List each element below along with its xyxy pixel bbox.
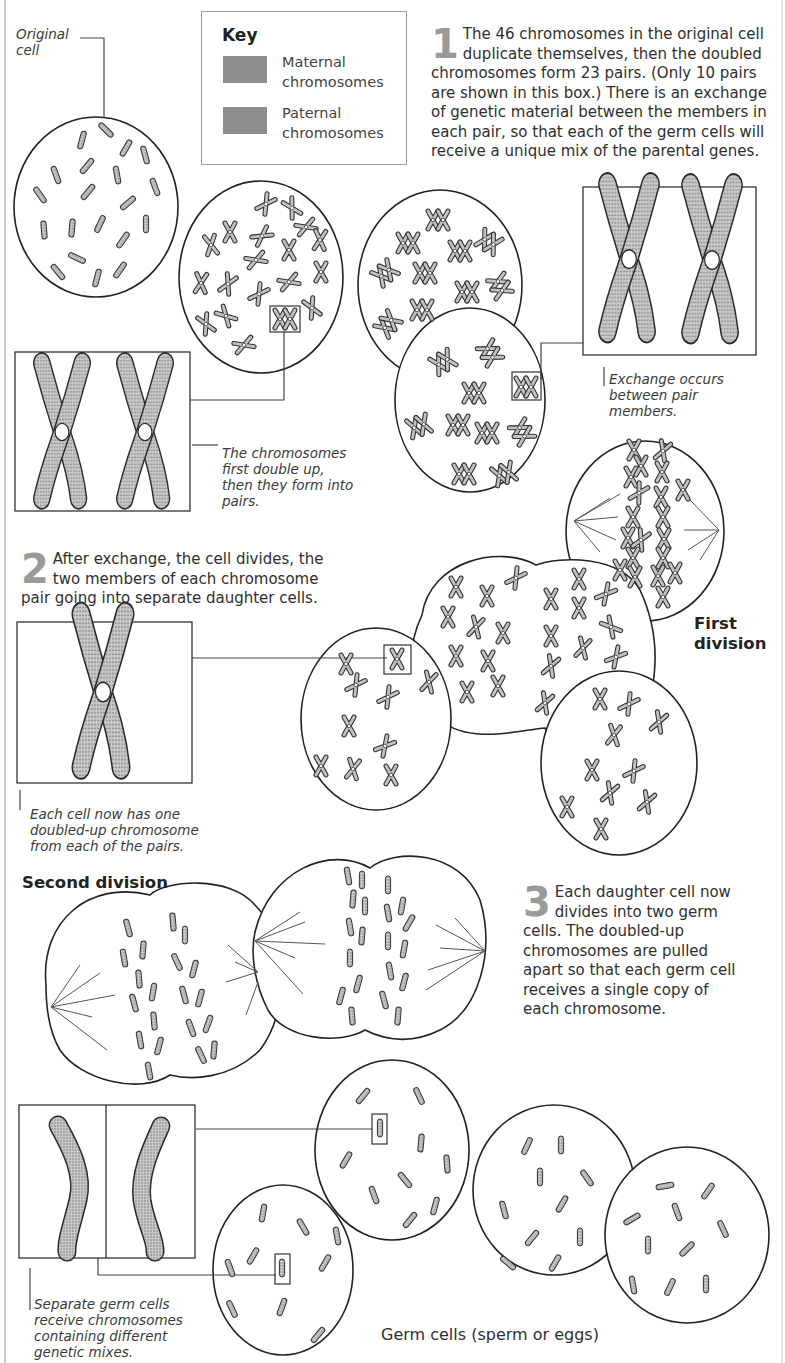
label-original-cell: Original cell — [16, 26, 86, 58]
key-legend: Key Maternal chromosomes Paternal chromo… — [201, 11, 407, 165]
key-paternal-label: Paternal chromosomes — [282, 103, 397, 143]
maternal-swatch — [223, 56, 267, 83]
key-title: Key — [222, 25, 258, 45]
step-2-text: 2After exchange, the cell divides, the t… — [21, 550, 331, 609]
daughter-cell-right — [541, 671, 697, 855]
label-chromosomes-double: The chromosomes first double up, then th… — [222, 445, 357, 509]
heading-first-division: First division — [694, 614, 774, 654]
daughter-cell-left — [301, 628, 451, 810]
step-2-number: 2 — [21, 552, 49, 586]
label-each-cell-now: Each cell now has one doubled-up chromos… — [30, 806, 220, 854]
original-cell — [14, 117, 178, 297]
second-division-cell-right — [253, 856, 486, 1039]
germ-cell-4 — [605, 1147, 769, 1323]
step-1-text: 1The 46 chromosomes in the original cell… — [431, 25, 769, 162]
step-3-number: 3 — [523, 885, 551, 919]
step-3-body: Each daughter cell now divides into two … — [523, 883, 736, 1018]
step-1-number: 1 — [431, 27, 459, 61]
step-2-body: After exchange, the cell divides, the tw… — [21, 550, 323, 607]
paternal-swatch — [223, 107, 267, 134]
second-division-cell-left — [46, 883, 282, 1084]
key-maternal-label: Maternal chromosomes — [282, 52, 397, 92]
germ-cell-1 — [315, 1060, 469, 1240]
label-separate-germ: Separate germ cells receive chromosomes … — [34, 1296, 194, 1360]
step-3-text: 3Each daughter cell now divides into two… — [523, 883, 743, 1020]
heading-second-division: Second division — [22, 873, 222, 893]
heading-germ-cells: Germ cells (sperm or eggs) — [381, 1325, 641, 1345]
meiosis-illustration — [0, 0, 785, 1363]
label-exchange-occurs: Exchange occurs between pair members. — [609, 371, 739, 419]
step-1-body: The 46 chromosomes in the original cell … — [431, 25, 767, 160]
